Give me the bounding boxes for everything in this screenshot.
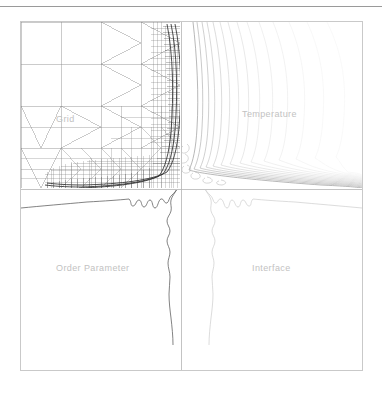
- quadrant-label-temperature: Temperature: [242, 109, 297, 119]
- plot-frame: [20, 21, 363, 371]
- quadrant-temperature-contours: [179, 22, 362, 188]
- quadrant-divider-axes: [21, 22, 362, 370]
- top-divider-rule: [0, 6, 382, 7]
- figure-canvas: Grid Temperature Order Parameter Interfa…: [0, 0, 382, 394]
- quad-figure-svg: [21, 22, 362, 370]
- quadrant-grid-mesh: [21, 22, 181, 188]
- quadrant-label-interface: Interface: [252, 263, 291, 273]
- quadrant-label-order-parameter: Order Parameter: [56, 263, 130, 273]
- quadrant-label-grid: Grid: [56, 114, 75, 124]
